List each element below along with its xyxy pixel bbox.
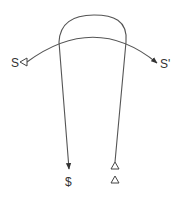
label-s-left: S (11, 56, 19, 70)
diagram-canvas: S S' $ (0, 0, 182, 200)
bottom-right-triangle-symbol-icon (111, 176, 119, 183)
label-s-prime-right: S' (160, 57, 170, 71)
horizontal-arc-path (27, 37, 157, 63)
left-open-triangle-icon (20, 58, 27, 66)
label-dollar-bottom-left: $ (65, 175, 72, 189)
arch-path (59, 15, 126, 169)
right-leg-open-triangle-icon (111, 162, 119, 169)
